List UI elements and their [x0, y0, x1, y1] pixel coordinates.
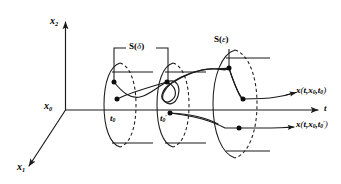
axis-label-x0: x0 — [44, 101, 52, 111]
delta-bracket-path — [114, 48, 168, 82]
point-5 — [227, 66, 232, 71]
figure-canvas: x2 x0 x1 t S(δ) S(ε) t0 t0′ x(t,x0,t0) x… — [0, 0, 341, 184]
point-4 — [168, 111, 173, 116]
tube-3-back-arc-dashed — [235, 50, 257, 158]
trajectory-lower — [170, 113, 294, 128]
trajectory-points — [112, 66, 246, 131]
trajectory-upper — [114, 68, 296, 104]
tube-1-back-arc-dashed — [120, 63, 136, 147]
time-mark-t0: t0 — [110, 114, 115, 123]
trajectory-upper-path — [114, 68, 294, 104]
point-6 — [241, 97, 246, 102]
trajectory-upper-arrow — [286, 93, 296, 96]
seg-b — [163, 68, 229, 102]
trajectory-lower-arrow — [284, 127, 294, 128]
tube-3-front-arc — [213, 50, 235, 158]
axis-group — [29, 22, 318, 166]
axis-label-x1: x1 — [17, 162, 25, 172]
trajectory-label-upper: x(t,x0,t0) — [296, 86, 326, 95]
time-mark-t0-prime: t0′ — [160, 114, 167, 123]
axis-label-t: t — [324, 104, 327, 113]
tube-delta-2 — [157, 63, 206, 147]
tube-2-front-arc — [157, 63, 173, 147]
tube-1-front-arc — [104, 63, 120, 147]
point-3 — [165, 80, 170, 85]
trajectory-label-lower: x(t,x0,t0′) — [296, 120, 328, 129]
seg-c — [229, 68, 243, 99]
axis-x1 — [29, 110, 66, 166]
axis-label-x2: x2 — [50, 16, 58, 26]
point-7 — [237, 126, 242, 131]
tube-epsilon — [213, 50, 270, 158]
set-label-delta: S(δ) — [129, 42, 144, 51]
point-2 — [115, 97, 120, 102]
delta-bracket — [114, 48, 168, 82]
point-1 — [112, 80, 117, 85]
set-label-epsilon: S(ε) — [214, 35, 229, 44]
tube-delta-1 — [104, 63, 153, 147]
diagram-svg — [0, 0, 341, 184]
